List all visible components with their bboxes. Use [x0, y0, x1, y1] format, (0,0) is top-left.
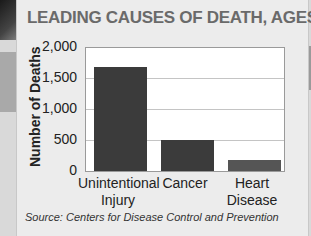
bar-unintentional-injury — [94, 67, 147, 171]
plot-area — [85, 47, 285, 171]
source-note: Source: Centers for Disease Control and … — [25, 211, 279, 223]
y-tick-1500: 1,500 — [37, 69, 77, 85]
y-tick-0: 0 — [37, 162, 77, 178]
x-axis-baseline — [85, 171, 285, 172]
bar-cancer — [161, 140, 214, 171]
y-tick-500: 500 — [37, 131, 77, 147]
x-label-line: Heart — [212, 175, 292, 192]
chart-panel: LEADING CAUSES OF DEATH, AGES 10–14 Numb… — [16, 0, 309, 236]
y-tick-1000: 1,000 — [37, 100, 77, 116]
background-photo-band — [0, 52, 16, 112]
y-tick-2000: 2,000 — [37, 38, 77, 54]
x-label-line: Disease — [212, 192, 292, 209]
x-label-line: Injury — [78, 192, 158, 209]
chart-title: LEADING CAUSES OF DEATH, AGES 10–14 — [27, 8, 311, 28]
bar-heart-disease — [228, 160, 281, 171]
x-label-heart-disease: Heart Disease — [212, 175, 292, 209]
